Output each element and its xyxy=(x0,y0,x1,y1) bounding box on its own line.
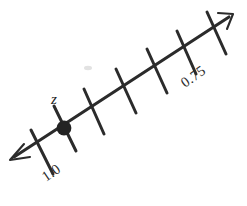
number-line-figure: z 1.0 0.75 xyxy=(0,0,247,206)
tick-mark xyxy=(116,69,136,113)
scan-speck xyxy=(84,66,92,70)
point-z-dot xyxy=(57,121,72,136)
tick-mark xyxy=(147,49,167,93)
axis-line xyxy=(14,17,229,157)
number-line-canvas: z 1.0 0.75 xyxy=(0,0,247,206)
tick-mark xyxy=(207,12,226,54)
tick-label-left: 1.0 xyxy=(39,160,64,184)
tick-mark xyxy=(84,89,104,134)
tick-label-right: 0.75 xyxy=(178,62,209,90)
point-z-label: z xyxy=(50,91,57,107)
